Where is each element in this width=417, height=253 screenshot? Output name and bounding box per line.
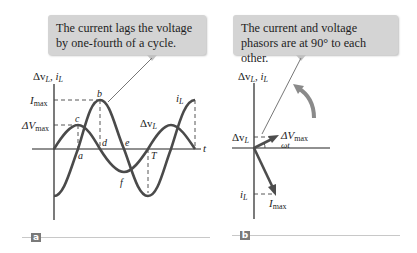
waveform-graph: ΔvL, iL t Imax ΔVmax b c a d e f T iL Δv… xyxy=(0,0,210,253)
imax-label: Imax xyxy=(29,94,47,108)
point-f-label: f xyxy=(120,177,124,188)
il-label: iL xyxy=(240,188,248,202)
axis-label: ΔvL, iL xyxy=(238,70,269,84)
point-a-label: a xyxy=(78,150,83,161)
panel-b-tag: b xyxy=(240,231,250,240)
point-c-label: c xyxy=(75,113,80,124)
y-axis-label: ΔvL, iL xyxy=(33,70,64,84)
current-curve-label: iL xyxy=(176,92,184,106)
t-axis-label: t xyxy=(203,142,207,154)
dv-label: ΔvL xyxy=(232,131,250,145)
voltage-curve-label: ΔvL xyxy=(140,117,158,131)
point-T-label: T xyxy=(151,150,158,161)
point-e-label: e xyxy=(125,137,130,148)
point-d-label: d xyxy=(102,137,108,148)
panel-a-tag: a xyxy=(31,233,41,242)
panel-a: The current lags the voltage by one-four… xyxy=(0,0,210,253)
voltage-phasor xyxy=(254,139,272,148)
callout-leader-line xyxy=(262,58,301,134)
rotation-arrow-icon xyxy=(298,88,314,118)
callout-leader-line xyxy=(108,58,152,102)
vmax-label: ΔVmax xyxy=(21,119,49,133)
point-b-label: b xyxy=(97,88,102,99)
omega-t-label: ωt xyxy=(281,140,290,150)
imax-label: Imax xyxy=(268,197,286,211)
panel-a-rule xyxy=(22,237,210,238)
panel-b-rule xyxy=(232,235,400,236)
panel-b: The current and voltage phasors are at 9… xyxy=(210,0,417,253)
phasor-diagram: ΔvL, iL ΔvL ΔVmax ωt iL Imax xyxy=(210,0,417,253)
current-phasor xyxy=(254,148,273,188)
